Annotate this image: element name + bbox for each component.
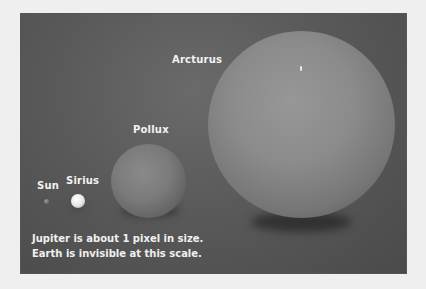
caption: Jupiter is about 1 pixel in size. Earth … <box>32 231 203 261</box>
caption-line-1: Jupiter is about 1 pixel in size. <box>32 231 203 246</box>
arcturus-sphere <box>208 31 395 218</box>
sun-sphere <box>44 199 49 204</box>
star-comparison-panel: Sun Sirius Pollux Arcturus Jupiter is ab… <box>21 14 406 273</box>
pollux-sphere <box>111 144 186 218</box>
sirius-sphere <box>71 194 85 208</box>
pollux-label: Pollux <box>133 124 169 135</box>
sun-label: Sun <box>37 180 59 191</box>
arcturus-highlight <box>300 66 302 71</box>
sirius-label: Sirius <box>66 175 99 186</box>
caption-line-2: Earth is invisible at this scale. <box>32 246 203 261</box>
arcturus-label: Arcturus <box>172 54 222 65</box>
